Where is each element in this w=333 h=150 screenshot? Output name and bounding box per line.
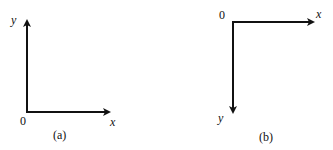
origin-label: 0 [20, 114, 26, 128]
origin-label: 0 [219, 8, 225, 22]
caption: (a) [53, 128, 66, 142]
coordinate-systems-figure: y 0 x (a) 0 x y (b) [0, 0, 333, 150]
caption: (b) [259, 130, 273, 144]
diagram-a: y 0 x (a) [10, 13, 116, 142]
diagram-b: 0 x y (b) [217, 7, 322, 144]
x-axis-label: x [109, 115, 116, 129]
x-axis-label: x [315, 7, 322, 21]
y-axis-label: y [217, 111, 224, 125]
y-axis-label: y [10, 13, 17, 27]
